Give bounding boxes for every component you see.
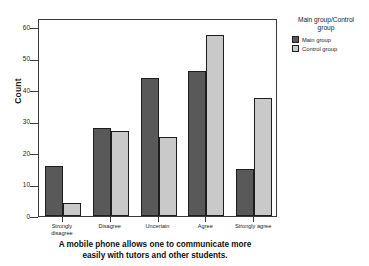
bar (236, 169, 254, 216)
bar (45, 166, 63, 216)
bar-chart: Count 0102030405060 Strongly disagreeDis… (0, 0, 369, 266)
legend-label-main-group: Main group (302, 37, 331, 43)
x-tick-3 (205, 217, 206, 222)
y-tick-label-10: 10 (6, 182, 30, 189)
y-tick-60 (30, 28, 38, 29)
bar (254, 98, 272, 216)
bar (93, 128, 111, 216)
y-tick-20 (30, 154, 38, 155)
bar (63, 203, 81, 216)
bars-layer (39, 20, 276, 216)
legend-swatch-main-group-icon (292, 36, 299, 43)
legend: Main group/Control group Main group Cont… (284, 16, 368, 54)
y-tick-label-0: 0 (6, 214, 30, 221)
bar (206, 35, 224, 216)
bar (159, 137, 177, 216)
y-tick-40 (30, 91, 38, 92)
y-tick-label-40: 40 (6, 88, 30, 95)
y-tick-label-20: 20 (6, 151, 30, 158)
legend-item-control-group[interactable]: Control group (292, 45, 368, 52)
y-tick-label-50: 50 (6, 56, 30, 63)
y-tick-10 (30, 186, 38, 187)
y-tick-30 (30, 123, 38, 124)
legend-label-control-group: Control group (302, 46, 337, 52)
bar (111, 131, 129, 216)
legend-item-main-group[interactable]: Main group (292, 36, 368, 43)
x-axis-title: A mobile phone allows one to communicate… (20, 240, 290, 261)
x-tick-1 (110, 217, 111, 222)
x-tick-4 (253, 217, 254, 222)
legend-title: Main group/Control group (284, 16, 368, 32)
x-tick-2 (158, 217, 159, 222)
x-category-label: Agree (181, 223, 229, 230)
y-tick-50 (30, 60, 38, 61)
x-category-label: Uncertain (134, 223, 182, 230)
x-category-label: Strongly agree (229, 223, 277, 230)
plot-area (38, 19, 277, 217)
x-tick-0 (62, 217, 63, 222)
x-category-label: Strongly disagree (38, 223, 86, 237)
y-tick-label-60: 60 (6, 25, 30, 32)
y-tick-label-30: 30 (6, 119, 30, 126)
y-tick-0 (30, 217, 38, 218)
bar (141, 78, 159, 216)
bar (188, 71, 206, 216)
legend-swatch-control-group-icon (292, 45, 299, 52)
x-category-label: Disagree (86, 223, 134, 230)
